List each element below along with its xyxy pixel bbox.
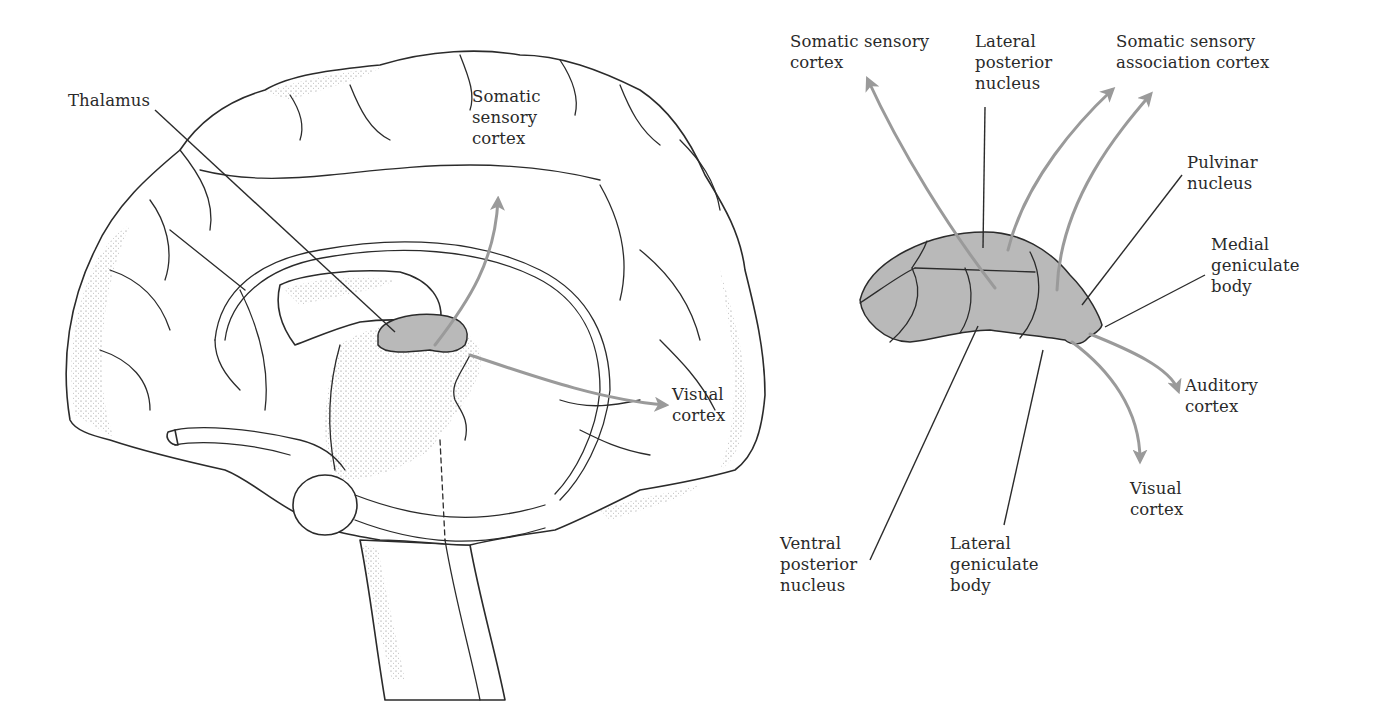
label-lateral-posterior-nucleus: Lateral posterior nucleus: [975, 31, 1052, 94]
label-visual-cortex-left: Visual cortex: [672, 384, 725, 426]
leader-ventral-posterior-nucleus: [870, 326, 978, 560]
label-medial-geniculate-body: Medial geniculate body: [1211, 234, 1300, 297]
leader-medial-geniculate-body: [1105, 275, 1205, 327]
leader-lateral-posterior-nucleus: [983, 107, 985, 248]
label-somatic-sensory-cortex-left: Somatic sensory cortex: [472, 86, 541, 149]
label-visual-cortex-right: Visual cortex: [1130, 478, 1183, 520]
leader-pulvinar-nucleus: [1082, 175, 1182, 305]
label-lateral-geniculate-body: Lateral geniculate body: [950, 533, 1039, 596]
leader-lateral-geniculate-body: [1004, 350, 1043, 525]
arrow-to-visual-cortex-right: [1072, 342, 1140, 460]
pons: [293, 475, 357, 535]
label-pulvinar-nucleus: Pulvinar nucleus: [1187, 152, 1258, 194]
label-auditory-cortex: Auditory cortex: [1185, 375, 1258, 417]
label-ventral-posterior-nucleus: Ventral posterior nucleus: [780, 533, 857, 596]
arrow-to-somatic-association-cortex-1: [1008, 90, 1112, 250]
arrow-to-auditory-cortex: [1090, 334, 1178, 390]
figure-drawing: [0, 0, 1377, 717]
label-somatic-sensory-cortex-right: Somatic sensory cortex: [790, 31, 929, 73]
label-thalamus: Thalamus: [68, 90, 150, 111]
arrow-to-somatic-association-cortex-2: [1057, 95, 1150, 290]
thalamus-body: [860, 232, 1102, 344]
thalamus-figure: Thalamus Somatic sensory cortex Visual c…: [0, 0, 1377, 717]
label-somatic-sensory-association-cortex: Somatic sensory association cortex: [1116, 31, 1269, 73]
brain-medial-view: [66, 51, 765, 700]
